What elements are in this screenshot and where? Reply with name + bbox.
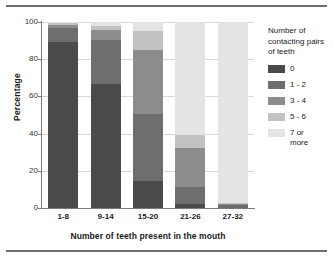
bar-segment[interactable] (218, 204, 248, 205)
legend-item-label: 0 (290, 64, 294, 75)
bar-segment[interactable] (91, 22, 121, 26)
legend-swatch (268, 129, 285, 137)
plot-area (42, 22, 254, 208)
x-tick-label: 15-20 (126, 212, 170, 221)
bar-segment[interactable] (91, 84, 121, 208)
legend-item-label: 3 - 4 (290, 96, 306, 107)
y-tick-mark (38, 208, 42, 209)
y-tick-mark (38, 59, 42, 60)
y-axis-tick-labels: 100806040200 (8, 22, 38, 208)
x-axis-line (41, 208, 255, 209)
x-tick-label: 21-26 (168, 212, 212, 221)
legend-item-label: 1 - 2 (290, 80, 306, 91)
y-tick-mark (38, 22, 42, 23)
legend: Number of contacting pairs of teeth 01 -… (268, 26, 330, 153)
legend-swatch (268, 81, 285, 89)
stacked-bar[interactable] (218, 22, 248, 208)
bar-segment[interactable] (175, 22, 205, 135)
legend-item[interactable]: 0 (268, 64, 330, 77)
bar-segment[interactable] (48, 23, 78, 25)
y-tick-label: 100 (12, 18, 38, 26)
x-axis-label: Number of teeth present in the mouth (20, 231, 276, 241)
bar-segment[interactable] (175, 135, 205, 148)
legend-items: 01 - 23 - 45 - 67 or more (268, 64, 330, 150)
x-tick-label: 27-32 (211, 212, 255, 221)
bar-segment[interactable] (48, 28, 78, 42)
y-tick-label: 60 (12, 92, 38, 100)
bar-segment[interactable] (48, 25, 78, 28)
bar-segment[interactable] (133, 50, 163, 114)
bar-segment[interactable] (91, 30, 121, 39)
bar-segment[interactable] (133, 114, 163, 181)
x-tick-label: 1-8 (41, 212, 85, 221)
y-tick-label: 40 (12, 130, 38, 138)
bar-segment[interactable] (175, 187, 205, 205)
bar-segment[interactable] (175, 204, 205, 208)
legend-item-label: 5 - 6 (290, 112, 306, 123)
bar-segment[interactable] (48, 22, 78, 23)
bar-group[interactable] (133, 22, 163, 208)
figure-container: Percentage 100806040200 1-89-1415-2021-2… (0, 0, 333, 259)
bar-group[interactable] (91, 22, 121, 208)
x-axis-tick-labels: 1-89-1415-2021-2627-32 (42, 212, 254, 224)
y-tick-label: 80 (12, 55, 38, 63)
bar-group[interactable] (218, 22, 248, 208)
bar-segment[interactable] (218, 205, 248, 208)
bar-group[interactable] (175, 22, 205, 208)
bar-segment[interactable] (133, 181, 163, 208)
top-rule (6, 5, 327, 7)
y-tick-label: 0 (12, 204, 38, 212)
legend-item[interactable]: 3 - 4 (268, 96, 330, 109)
bar-segment[interactable] (218, 22, 248, 203)
bar-segment[interactable] (218, 203, 248, 204)
bar-segment[interactable] (91, 40, 121, 85)
legend-item[interactable]: 5 - 6 (268, 112, 330, 125)
bar-segment[interactable] (175, 148, 205, 187)
bar-segment[interactable] (91, 26, 121, 31)
y-tick-mark (38, 96, 42, 97)
stacked-bar[interactable] (133, 22, 163, 208)
bar-group[interactable] (48, 22, 78, 208)
y-tick-mark (38, 171, 42, 172)
legend-swatch (268, 113, 285, 121)
bar-segment[interactable] (133, 31, 163, 50)
stacked-bar[interactable] (48, 22, 78, 208)
stacked-bar[interactable] (175, 22, 205, 208)
x-tick-label: 9-14 (84, 212, 128, 221)
legend-item[interactable]: 7 or more (268, 128, 330, 150)
legend-item[interactable]: 1 - 2 (268, 80, 330, 93)
legend-swatch (268, 65, 285, 73)
bar-segment[interactable] (133, 22, 163, 31)
legend-item-label: 7 or more (290, 128, 308, 149)
bottom-rule (6, 250, 327, 252)
legend-swatch (268, 97, 285, 105)
legend-title: Number of contacting pairs of teeth (268, 26, 326, 58)
y-tick-mark (38, 134, 42, 135)
stacked-bar[interactable] (91, 22, 121, 208)
y-tick-label: 20 (12, 167, 38, 175)
bar-segment[interactable] (48, 42, 78, 208)
